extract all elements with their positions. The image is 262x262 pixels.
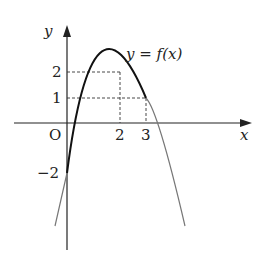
curve-main [67, 49, 146, 173]
y-tick-1: 1 [52, 89, 62, 107]
x-tick-2: 2 [115, 126, 125, 144]
function-label: y = f(x) [125, 45, 182, 63]
y-axis-arrow-icon [63, 25, 71, 37]
y-tick-neg2: −2 [37, 164, 59, 182]
dashed-guides [67, 72, 146, 123]
y-tick-2: 2 [52, 63, 62, 81]
origin-label: O [49, 126, 61, 144]
y-axis-label: y [43, 22, 53, 40]
function-graph: y x O y = f(x) 2 3 2 1 −2 [0, 0, 262, 262]
x-axis-label: x [240, 126, 249, 144]
x-tick-3: 3 [141, 126, 151, 144]
